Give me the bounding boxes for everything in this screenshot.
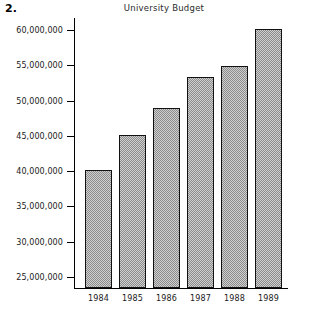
bar-slot: 1987	[187, 17, 214, 288]
y-axis-tick-label: 25,000,000	[16, 273, 63, 282]
x-axis-tick-label: 1984	[88, 294, 109, 303]
plot-area: 25,000,00030,000,00035,000,00040,000,000…	[74, 18, 288, 289]
x-axis-tick-label: 1985	[122, 294, 143, 303]
bar	[85, 170, 112, 288]
y-axis-tick	[67, 65, 74, 66]
y-axis-tick	[67, 136, 74, 137]
y-axis-tick-label: 45,000,000	[16, 131, 63, 140]
y-axis-tick-label: 60,000,000	[16, 26, 63, 35]
figure-container: 2. University Budget 25,000,00030,000,00…	[0, 0, 310, 315]
y-axis-tick	[67, 242, 74, 243]
y-axis-tick	[67, 171, 74, 172]
bar	[255, 29, 282, 288]
y-axis-tick-label: 35,000,000	[16, 202, 63, 211]
bar-series: 198419851986198719881989	[75, 18, 288, 288]
x-axis-tick-label: 1989	[258, 294, 279, 303]
y-axis-tick	[67, 206, 74, 207]
y-axis-tick	[67, 101, 74, 102]
bar	[187, 77, 214, 288]
chart-title: University Budget	[0, 3, 310, 13]
y-axis-tick-label: 55,000,000	[16, 61, 63, 70]
bar-slot: 1986	[153, 17, 180, 288]
bar-slot: 1985	[119, 17, 146, 288]
y-axis-tick-label: 50,000,000	[16, 96, 63, 105]
bar	[119, 135, 146, 288]
x-axis-tick-label: 1987	[190, 294, 211, 303]
y-axis-tick-label: 40,000,000	[16, 167, 63, 176]
bar-slot: 1984	[85, 17, 112, 288]
bar	[153, 108, 180, 288]
x-axis-line	[74, 288, 288, 289]
x-axis-tick-label: 1986	[156, 294, 177, 303]
y-axis-tick-label: 30,000,000	[16, 237, 63, 246]
bar	[221, 66, 248, 288]
y-axis-tick	[67, 277, 74, 278]
bar-slot: 1988	[221, 17, 248, 288]
y-axis-tick	[67, 30, 74, 31]
x-axis-tick-label: 1988	[224, 294, 245, 303]
bar-slot: 1989	[255, 17, 282, 288]
